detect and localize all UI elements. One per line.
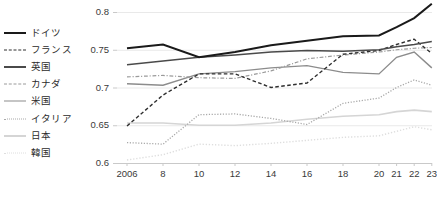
legend-item-label: 米国 <box>31 96 51 106</box>
legend-item-ドイツ[interactable]: ドイツ <box>4 24 100 41</box>
x-axis-label-10: 10 <box>194 169 205 179</box>
y-axis-label-0.7: 0.7 <box>83 83 109 93</box>
legend-item-英国[interactable]: 英国 <box>4 58 100 75</box>
x-axis-label-22: 22 <box>409 169 420 179</box>
legend-line-swatch-icon <box>4 45 26 55</box>
legend-item-label: カナダ <box>31 79 62 89</box>
legend-line-swatch-icon <box>4 96 26 106</box>
legend-item-label: 英国 <box>31 62 51 72</box>
y-axis-label-0.75: 0.75 <box>83 45 109 55</box>
x-axis-label-20: 20 <box>374 169 385 179</box>
legend-line-swatch-icon <box>4 79 26 89</box>
legend-item-label: フランス <box>31 45 72 55</box>
y-axis-label-0.6: 0.6 <box>83 158 109 168</box>
x-axis-label-2006: 2006 <box>116 169 137 179</box>
series-line-韓国 <box>127 127 432 160</box>
y-axis-label-0.65: 0.65 <box>83 120 109 130</box>
legend-item-label: イタリア <box>31 114 72 124</box>
x-axis-label-16: 16 <box>302 169 313 179</box>
legend-item-米国[interactable]: 米国 <box>4 93 100 110</box>
legend-line-swatch-icon <box>4 131 26 141</box>
legend-line-swatch-icon <box>4 114 26 124</box>
legend-line-swatch-icon <box>4 148 26 158</box>
legend-line-swatch-icon <box>4 62 26 72</box>
legend-item-label: ドイツ <box>31 28 62 38</box>
series-line-日本 <box>127 110 432 125</box>
legend-item-label: 日本 <box>31 131 51 141</box>
x-axis-label-18: 18 <box>338 169 349 179</box>
x-axis-label-14: 14 <box>266 169 277 179</box>
y-axis-label-0.8: 0.8 <box>83 7 109 17</box>
x-axis-label-21: 21 <box>391 169 402 179</box>
legend-line-swatch-icon <box>4 28 26 38</box>
legend-item-label: 韓国 <box>31 148 51 158</box>
x-axis-label-8: 8 <box>160 169 165 179</box>
x-axis-label-23: 23 <box>427 169 437 179</box>
x-axis-label-12: 12 <box>230 169 241 179</box>
